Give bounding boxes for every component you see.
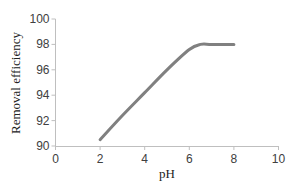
y-axis-title: Removal efficiency: [8, 32, 23, 134]
y-tick-label: 94: [36, 88, 50, 102]
data-line: [100, 44, 234, 140]
x-tick-label: 8: [231, 152, 238, 166]
y-tick-label: 100: [29, 12, 49, 26]
x-tick-label: 2: [97, 152, 104, 166]
x-tick-label: 4: [141, 152, 148, 166]
x-tick-label: 10: [272, 152, 286, 166]
x-tick-label: 0: [52, 152, 59, 166]
y-tick-label: 92: [36, 114, 50, 128]
x-axis: 0246810: [52, 146, 285, 166]
y-tick-label: 90: [36, 139, 50, 153]
x-tick-label: 6: [186, 152, 193, 166]
y-tick-label: 96: [36, 63, 50, 77]
chart: 9092949698100 0246810 pH Removal efficie…: [0, 0, 299, 194]
y-tick-label: 98: [36, 37, 50, 51]
x-axis-title: pH: [159, 166, 175, 181]
y-axis: 9092949698100: [29, 12, 55, 153]
